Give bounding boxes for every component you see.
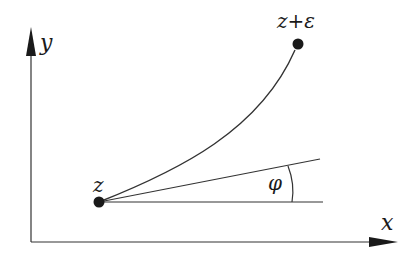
x-axis-arrowhead bbox=[369, 237, 398, 247]
point-z bbox=[94, 197, 105, 208]
tangent-line bbox=[99, 159, 320, 202]
x-axis-label: x bbox=[381, 210, 394, 235]
complex-plane-diagram: y x z z+ε φ bbox=[0, 0, 413, 264]
point-z-plus-epsilon bbox=[293, 39, 304, 50]
y-axis-arrowhead bbox=[26, 27, 36, 56]
angle-phi-label: φ bbox=[268, 171, 282, 195]
curve-path bbox=[99, 50, 295, 202]
y-axis-label: y bbox=[39, 30, 53, 55]
angle-arc bbox=[288, 166, 293, 202]
point-z-label: z bbox=[92, 173, 104, 197]
point-z-plus-epsilon-label: z+ε bbox=[276, 9, 315, 33]
